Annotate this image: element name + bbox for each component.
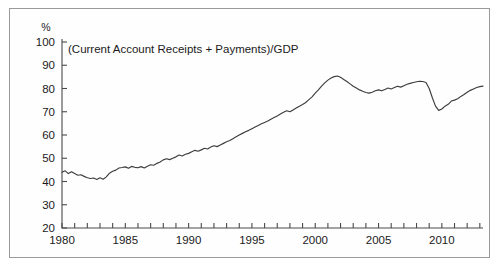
y-tick-label: 20	[42, 222, 55, 234]
x-tick-group: 1980198519901995200020052010	[49, 223, 480, 246]
y-tick-label: 70	[42, 106, 55, 118]
x-tick-label: 1990	[176, 234, 202, 246]
x-tick-label: 1980	[49, 234, 75, 246]
axis-lines	[62, 39, 483, 228]
chart-title: (Current Account Receipts + Payments)/GD…	[68, 43, 299, 55]
y-tick-label: 30	[42, 199, 55, 211]
x-tick-label: 1985	[113, 234, 139, 246]
y-tick-label: 90	[42, 59, 55, 71]
x-tick-label: 1995	[239, 234, 265, 246]
y-tick-label: 50	[42, 152, 55, 164]
data-series-line	[62, 76, 483, 179]
chart-plot-area: 2030405060708090100 19801985199019952000…	[0, 0, 503, 269]
y-tick-label: 40	[42, 176, 55, 188]
y-tick-label: 100	[36, 36, 55, 48]
series-group	[62, 76, 483, 179]
y-axis-unit-label: %	[41, 21, 50, 33]
y-tick-label: 60	[42, 129, 55, 141]
axes-group	[62, 39, 483, 228]
x-tick-label: 2010	[429, 234, 455, 246]
y-tick-label: 80	[42, 83, 55, 95]
chart-figure: 2030405060708090100 19801985199019952000…	[0, 0, 503, 269]
x-tick-label: 2000	[302, 234, 328, 246]
x-tick-label: 2005	[366, 234, 392, 246]
y-tick-group: 2030405060708090100	[36, 36, 67, 234]
